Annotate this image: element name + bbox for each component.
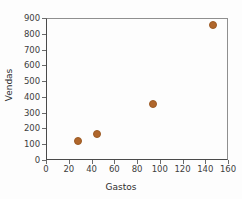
x-tick-label: 160 <box>213 165 242 174</box>
data-point <box>74 137 82 145</box>
scatter-chart: 0100200300400500600700800900 02040608010… <box>0 0 242 199</box>
y-axis-title: Vendas <box>4 55 14 115</box>
plot-data-area <box>46 18 228 160</box>
x-axis-title: Gastos <box>0 182 242 192</box>
data-point <box>149 100 157 108</box>
data-point <box>209 21 217 29</box>
data-point <box>93 130 101 138</box>
